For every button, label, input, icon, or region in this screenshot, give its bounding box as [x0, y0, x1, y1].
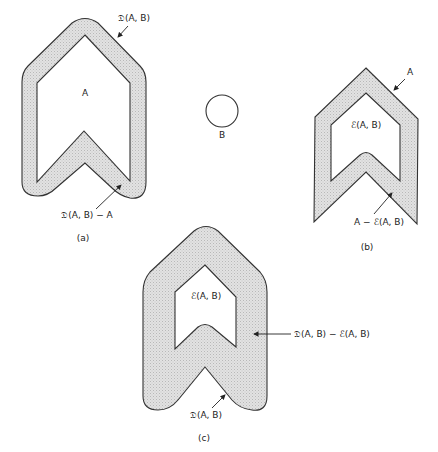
set-a-arrow-b	[394, 79, 405, 90]
panel-a: A 𝔇(A, B) 𝔇(A, B) − A (a)	[22, 13, 150, 243]
panel-b: ℰ(A, B) A A − ℰ(A, B) (b)	[314, 67, 418, 252]
dilation-minus-a-arrow	[96, 185, 121, 209]
structuring-element-b: B	[206, 95, 238, 140]
caption-c: (c)	[198, 433, 210, 443]
caption-b: (b)	[361, 242, 374, 252]
erosion-label-b: ℰ(A, B)	[351, 120, 382, 130]
caption-a: (a)	[77, 233, 90, 243]
morphology-diagram: A 𝔇(A, B) 𝔇(A, B) − A (a) B ℰ(A, B) A A …	[0, 0, 438, 452]
circle-b	[206, 95, 238, 127]
panel-c: ℰ(A, B) 𝔇(A, B) − ℰ(A, B) 𝔇(A, B) (c)	[143, 227, 370, 444]
circle-b-label: B	[219, 130, 225, 140]
erosion-label-c: ℰ(A, B)	[191, 291, 222, 301]
dilation-arrow-c	[212, 395, 225, 408]
dilation-arrow-a	[118, 26, 128, 37]
dilation-minus-a-label: 𝔇(A, B) − A	[61, 210, 113, 220]
a-minus-erosion-arrow	[374, 193, 392, 214]
set-a-label: A	[82, 88, 89, 98]
dilation-label-c: 𝔇(A, B)	[190, 410, 222, 420]
dilation-label-a: 𝔇(A, B)	[118, 13, 150, 23]
gradient-label-c: 𝔇(A, B) − ℰ(A, B)	[294, 329, 370, 339]
set-a-label-b: A	[407, 67, 414, 77]
a-minus-erosion-label: A − ℰ(A, B)	[354, 217, 404, 227]
